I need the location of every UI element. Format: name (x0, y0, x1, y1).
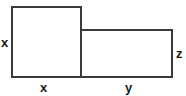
rectangle-shape (80, 29, 173, 78)
rectangle-bottom-label: y (125, 81, 132, 94)
square-shape (11, 6, 82, 78)
square-left-label: x (1, 36, 8, 49)
square-bottom-label: x (40, 81, 47, 94)
rectangle-right-label: z (176, 47, 183, 60)
